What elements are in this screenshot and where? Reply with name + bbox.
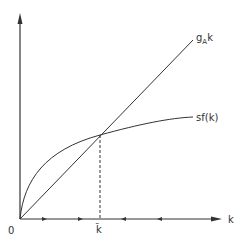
steady-state-label: k̃ — [95, 223, 102, 235]
y-axis-arrow-icon — [18, 13, 23, 24]
ga-k-line — [20, 40, 193, 219]
arrow-left-icon — [157, 217, 162, 221]
arrow-right-icon — [42, 217, 47, 221]
sf-k-curve — [20, 117, 193, 219]
x-axis-arrow-icon — [211, 217, 222, 222]
x-axis-label: k — [228, 214, 234, 225]
solow-diagram: gAk sf(k) k 0 k̃ — [0, 0, 249, 242]
arrow-left-icon — [121, 217, 126, 221]
ga-k-label: gAk — [196, 32, 213, 46]
origin-label: 0 — [8, 225, 14, 236]
arrow-right-icon — [78, 217, 83, 221]
sf-k-label: sf(k) — [196, 112, 218, 123]
